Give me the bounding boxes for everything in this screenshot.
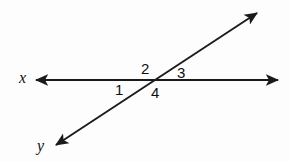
angle-label-3: 3 xyxy=(177,65,185,80)
geometry-diagram: 2 3 1 4 x y xyxy=(0,0,290,162)
angle-label-2: 2 xyxy=(141,61,149,76)
angle-label-4: 4 xyxy=(151,85,159,100)
angle-label-1: 1 xyxy=(115,82,123,97)
line-y xyxy=(56,13,257,145)
axis-label-y: y xyxy=(37,138,44,154)
axis-label-x: x xyxy=(19,70,26,86)
